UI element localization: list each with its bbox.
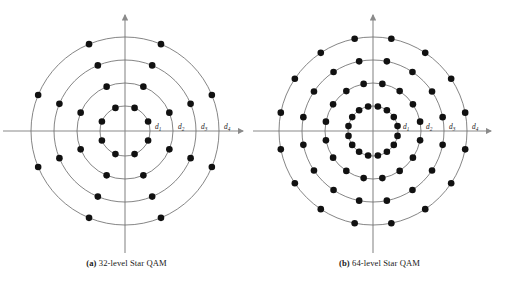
constellation-point [158,215,165,222]
constellation-point [112,105,119,112]
constellation-point [103,172,110,179]
constellation-point [429,167,436,174]
constellation-point [410,101,417,108]
constellation-point [77,146,84,153]
constellation-svg-a: d1d2d3d4 [0,0,253,262]
constellation-point [356,58,363,65]
distance-label-d2: d2 [178,122,185,132]
constellation-point [343,168,350,175]
constellation-point [360,81,367,88]
constellation-point [86,41,93,48]
constellation-point [317,50,324,57]
constellation-point [375,103,382,110]
constellation-point [384,107,391,114]
constellation-point [379,175,386,182]
constellation-point [187,101,194,108]
constellation-point [410,154,417,161]
constellation-point [379,81,386,88]
constellation-point [462,109,469,116]
constellation-point [349,114,356,121]
constellation-plot-b: d1d2d3d4 [253,0,506,262]
constellation-point [384,148,391,155]
constellation-point [330,187,337,194]
constellation-point [311,88,318,95]
constellation-point [417,137,424,144]
constellation-point [278,109,285,116]
constellation-point [388,36,395,43]
constellation-point [396,168,403,175]
constellation-point [140,83,147,90]
constellation-point [323,118,330,125]
constellation-point [330,101,337,108]
constellation-point [145,118,152,125]
constellation-point [390,142,397,149]
constellation-point [356,197,363,204]
constellation-point [429,88,436,95]
constellation-point [187,155,194,162]
constellation-point [422,206,429,213]
constellation-point [409,187,416,194]
constellation-point [292,75,299,82]
constellation-point [95,193,102,200]
constellation-point [345,123,352,130]
constellation-point [349,142,356,149]
constellation-point [131,105,138,112]
constellation-point [409,69,416,76]
constellation-point [396,88,403,95]
constellation-point [35,164,42,171]
constellation-point [86,215,93,222]
distance-label-d3: d3 [201,122,208,132]
constellation-point [56,155,63,162]
distance-label-d4: d4 [472,122,479,132]
distance-label-d3: d3 [449,122,456,132]
distance-label-d4: d4 [224,122,231,132]
star-qam-figure: d1d2d3d4 (a) 32-level Star QAM d1d2d3d4 … [0,0,507,297]
constellation-point [384,197,391,204]
caption-label-a: (a) [86,258,96,268]
caption-panel-a: (a) 32-level Star QAM [0,258,253,268]
panel-32-level-star-qam: d1d2d3d4 (a) 32-level Star QAM [0,0,253,297]
constellation-point [448,75,455,82]
constellation-point [439,114,446,121]
constellation-point [166,146,173,153]
constellation-point [56,101,63,108]
constellation-point [311,167,318,174]
constellation-point [77,109,84,116]
distance-label-d1: d1 [155,122,162,132]
constellation-point [365,103,372,110]
constellation-point [417,118,424,125]
constellation-point [356,107,363,114]
constellation-point [351,220,358,227]
caption-text-b: 64-level Star QAM [352,258,420,268]
constellation-point [99,137,106,144]
caption-text-a: 32-level Star QAM [99,258,167,268]
constellation-point [462,146,469,153]
constellation-point [343,88,350,95]
constellation-point [131,151,138,158]
panel-64-level-star-qam: d1d2d3d4 (b) 64-level Star QAM [253,0,506,297]
constellation-point [300,114,307,121]
distance-label-d1: d1 [403,122,410,132]
constellation-point [112,151,119,158]
constellation-point [300,142,307,149]
caption-panel-b: (b) 64-level Star QAM [253,258,506,268]
constellation-point [360,175,367,182]
constellation-point [390,114,397,121]
constellation-point [422,50,429,57]
constellation-point [365,152,372,159]
constellation-point [394,123,401,130]
constellation-point [95,62,102,69]
constellation-point [330,154,337,161]
constellation-point [278,146,285,153]
constellation-point [388,220,395,227]
constellation-point [149,193,156,200]
constellation-point [149,62,156,69]
constellation-point [448,180,455,187]
constellation-point [323,137,330,144]
constellation-point [375,152,382,159]
constellation-point [209,164,216,171]
constellation-point [384,58,391,65]
constellation-point [103,83,110,90]
constellation-point [99,118,106,125]
constellation-point [394,133,401,140]
